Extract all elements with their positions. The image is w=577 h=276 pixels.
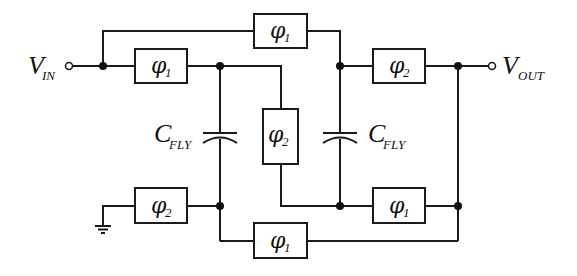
svg-text:1: 1 [165,65,172,80]
svg-text:1: 1 [403,205,410,220]
svg-text:IN: IN [41,68,56,83]
cfly-label-right: C FLY [368,119,407,152]
switch-top-bypass: φ 1 [254,14,307,48]
circuit-diagram: φ 1 φ 1 φ 2 φ 2 φ 2 φ 1 φ 1 V IN V OUT C [0,0,577,276]
switch-right-bottom: φ 1 [373,188,425,223]
switch-ground: φ 2 [135,188,187,223]
cfly-label-left: C FLY [154,119,193,152]
vout-label: V OUT [502,51,545,83]
svg-text:2: 2 [403,65,410,80]
ground-icon [95,226,111,233]
vin-terminal-icon [66,63,73,70]
vout-terminal-icon [489,63,496,70]
svg-text:1: 1 [284,30,291,45]
svg-text:FLY: FLY [168,137,193,152]
svg-text:FLY: FLY [382,137,407,152]
svg-text:1: 1 [284,240,291,255]
switch-right-top: φ 2 [373,49,425,83]
svg-text:2: 2 [282,134,289,149]
switch-in: φ 1 [135,49,187,83]
switch-middle: φ 2 [263,109,298,164]
svg-text:OUT: OUT [518,68,545,83]
switch-bottom: φ 1 [254,223,307,258]
vin-label: V IN [28,51,56,83]
svg-text:2: 2 [165,205,172,220]
